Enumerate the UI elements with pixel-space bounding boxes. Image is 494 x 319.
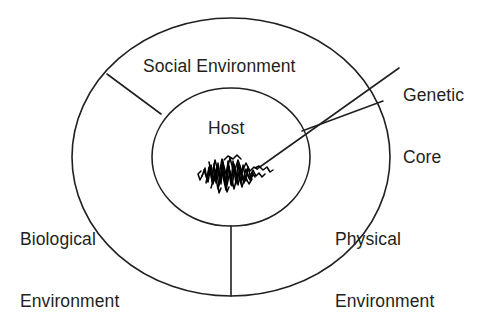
label-biological-environment-line1: Biological [20,229,119,250]
label-social-environment: Social Environment [143,56,296,77]
label-physical-environment-line1: Physical [335,229,434,250]
label-biological-environment: Biological Environment [20,188,119,319]
label-genetic-core-line1: Genetic [403,85,464,106]
divider-upper-left [107,74,161,114]
label-genetic-core: Genetic Core [403,44,464,209]
genetic-core-leader-line [257,68,399,169]
genetic-core-scribble [198,155,273,193]
label-biological-environment-line2: Environment [20,291,119,312]
diagram-canvas: Social Environment Host Genetic Core Bio… [0,0,494,319]
divider-upper-right [302,101,383,131]
label-host: Host [208,118,244,139]
label-physical-environment: Physical Environment [335,188,434,319]
label-genetic-core-line2: Core [403,147,464,168]
label-physical-environment-line2: Environment [335,291,434,312]
